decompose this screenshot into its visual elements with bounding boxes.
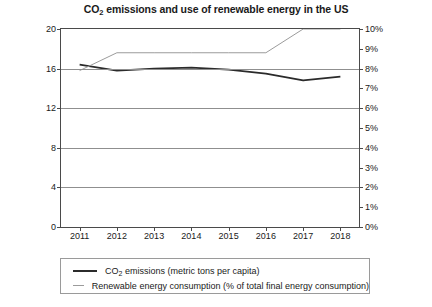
y-axis-right-tick-label: 2%: [365, 182, 399, 192]
y-axis-right-tick: [359, 108, 363, 109]
y-axis-left-tick-label: 8: [16, 143, 56, 153]
y-axis-right-tick: [359, 49, 363, 50]
x-axis-tick-label: 2018: [330, 231, 350, 241]
gridline: [61, 108, 359, 109]
y-axis-right-tick-label: 9%: [365, 44, 399, 54]
y-axis-right-tick-label: 4%: [365, 143, 399, 153]
chart-title-rest: emissions and use of renewable energy in…: [103, 3, 348, 15]
y-axis-left-tick: [57, 69, 61, 70]
y-axis-right-tick-label: 8%: [365, 64, 399, 74]
y-axis-right-tick-label: 6%: [365, 103, 399, 113]
y-axis-right-tick-label: 7%: [365, 83, 399, 93]
y-axis-right-tick-label: 0%: [365, 222, 399, 232]
legend-item-renewable: Renewable energy consumption (% of total…: [61, 278, 369, 293]
x-axis-tick-label: 2012: [107, 231, 127, 241]
y-axis-right-tick-label: 1%: [365, 202, 399, 212]
y-axis-left-tick-label: 12: [16, 103, 56, 113]
chart-title-main: CO: [84, 3, 100, 15]
y-axis-right-tick-label: 5%: [365, 123, 399, 133]
x-axis-tick-label: 2015: [219, 231, 239, 241]
x-axis-tick-label: 2017: [293, 231, 313, 241]
chart-legend: CO2 emissions (metric tons per capita) R…: [60, 258, 370, 294]
y-axis-left-tick: [57, 148, 61, 149]
line-co2-emissions: [80, 65, 341, 81]
legend-swatch-co2-line: [73, 270, 97, 272]
chart-title-subscript: 2: [99, 8, 103, 17]
y-axis-left-tick-label: 20: [16, 24, 56, 34]
y-axis-right-tick-label: 10%: [365, 24, 399, 34]
legend-item-co2: CO2 emissions (metric tons per capita): [61, 263, 369, 278]
y-axis-right-tick: [359, 148, 363, 149]
y-axis-right-title: Renewables as a percentage of total ener…: [396, 28, 432, 228]
y-axis-right-tick: [359, 88, 363, 89]
y-axis-right-tick: [359, 168, 363, 169]
y-axis-left-tick-label: 0: [16, 222, 56, 232]
series-lines: [61, 29, 359, 227]
y-axis-right-tick: [359, 187, 363, 188]
y-axis-right-tick: [359, 29, 363, 30]
x-axis-tick-label: 2016: [256, 231, 276, 241]
x-axis-tick-label: 2011: [70, 231, 89, 241]
y-axis-left-tick-label: 16: [16, 64, 56, 74]
y-axis-left-tick: [57, 227, 61, 228]
line-renewable-energy: [80, 29, 341, 71]
y-axis-right-tick: [359, 128, 363, 129]
gridline: [61, 69, 359, 70]
y-axis-right-tick: [359, 227, 363, 228]
y-axis-right-tick: [359, 207, 363, 208]
y-axis-right-tick: [359, 69, 363, 70]
y-axis-left-tick: [57, 29, 61, 30]
y-axis-left-tick: [57, 108, 61, 109]
y-axis-left-tick-label: 4: [16, 182, 56, 192]
legend-label-co2: CO2 emissions (metric tons per capita): [105, 266, 259, 276]
gridline: [61, 187, 359, 188]
x-axis-tick-label: 2014: [181, 231, 201, 241]
x-axis-tick-label: 2013: [144, 231, 164, 241]
chart-title: CO2 emissions and use of renewable energ…: [0, 3, 432, 15]
chart-container: CO2 emissions and use of renewable energ…: [0, 0, 432, 307]
plot-area: 0481216200%1%2%3%4%5%6%7%8%9%10%20112012…: [60, 28, 360, 228]
gridline: [61, 148, 359, 149]
y-axis-right-tick-label: 3%: [365, 163, 399, 173]
legend-swatch-renewable-line: [73, 285, 84, 286]
y-axis-left-tick: [57, 187, 61, 188]
legend-label-renewable: Renewable energy consumption (% of total…: [92, 281, 369, 291]
